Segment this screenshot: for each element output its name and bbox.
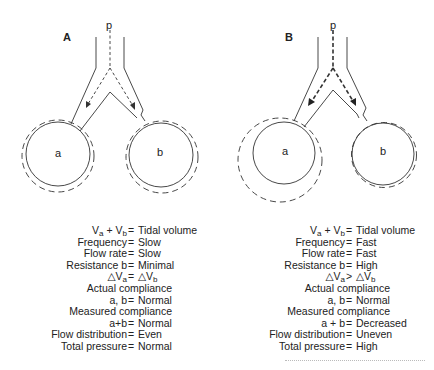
equation-row: Total pressure=High: [217, 341, 434, 353]
panel-a-airways: [71, 37, 145, 131]
panel-a-pressure-label: p: [106, 19, 112, 31]
panel-b-airways: [294, 37, 367, 127]
equation-lhs: Actual compliance: [305, 283, 390, 295]
equation-row: Total pressure=Normal: [0, 341, 217, 353]
panel-a-lung-b-label: b: [157, 146, 163, 158]
cropped-caption-remnant: [285, 360, 425, 362]
equation-rhs: Tidal volume: [138, 225, 197, 237]
equation-rhs: Tidal volume: [356, 225, 415, 237]
equation-lhs: Total pressure: [279, 341, 345, 353]
equation-operator: =: [128, 341, 134, 353]
equation-row: Actual compliance: [217, 283, 434, 295]
equation-lhs: Total pressure: [61, 341, 127, 353]
equation-rhs: High: [356, 341, 378, 353]
panel-b-lung-b-label: b: [380, 145, 386, 157]
lung-a-panel-b: [238, 118, 322, 202]
equation-operator: =: [346, 225, 352, 237]
panel-a-label: A: [63, 31, 71, 43]
equation-rhs: Normal: [138, 341, 172, 353]
panel-b-arrowheads: [308, 98, 356, 106]
equation-operator: =: [128, 225, 134, 237]
panel-b-label: B: [285, 31, 293, 43]
equation-operator: =: [346, 341, 352, 353]
panel-b-equations: Va + Vb=Tidal volumeFrequency=FastFlow r…: [217, 225, 434, 365]
panel-a-flow-arrows: [88, 30, 133, 106]
panel-a-lung-a-label: a: [55, 147, 61, 159]
panel-b-pressure-label: p: [330, 19, 336, 31]
panel-a-equations: Va + Vb=Tidal volumeFrequency=SlowFlow r…: [0, 225, 217, 365]
panel-b-lung-a-label: a: [282, 145, 288, 157]
equation-lhs: Actual compliance: [87, 283, 172, 295]
